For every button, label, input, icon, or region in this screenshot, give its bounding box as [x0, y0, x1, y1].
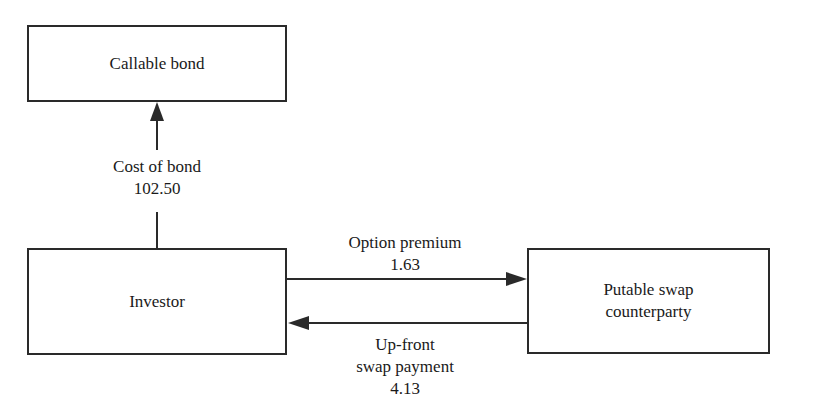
upfront-payment-text-line2: swap payment [330, 356, 480, 378]
arrowhead-up-icon [150, 102, 164, 121]
putable-swap-label-line1: Putable swap [603, 279, 693, 301]
callable-bond-node: Callable bond [27, 25, 287, 102]
putable-swap-counterparty-node: Putable swap counterparty [527, 248, 770, 354]
upfront-payment-text-line1: Up-front [330, 334, 480, 356]
cost-of-bond-edge-label: Cost of bond 102.50 [77, 156, 237, 200]
investor-label: Investor [129, 291, 185, 313]
upfront-payment-value: 4.13 [330, 378, 480, 400]
arrowhead-right-icon [506, 272, 527, 286]
cost-of-bond-text: Cost of bond [77, 156, 237, 178]
callable-bond-label: Callable bond [110, 53, 205, 75]
investor-node: Investor [27, 248, 287, 355]
upfront-payment-edge-label: Up-front swap payment 4.13 [330, 334, 480, 400]
option-premium-value: 1.63 [330, 254, 480, 276]
cost-of-bond-value: 102.50 [77, 178, 237, 200]
putable-swap-label-line2: counterparty [606, 301, 692, 323]
option-premium-text: Option premium [330, 232, 480, 254]
option-premium-edge-label: Option premium 1.63 [330, 232, 480, 276]
arrowhead-left-icon [288, 316, 309, 330]
